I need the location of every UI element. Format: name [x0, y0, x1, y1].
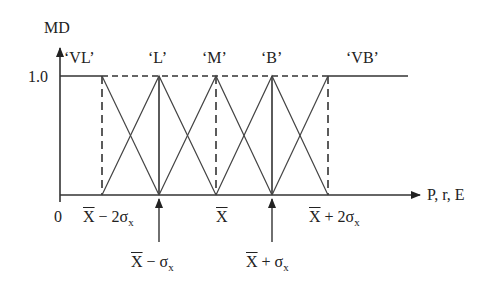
- set-label-m: ‘M’: [202, 50, 227, 66]
- tick-label-mean-plus-sigma: X + σx: [246, 254, 289, 273]
- tick-label-mean: X: [216, 209, 228, 225]
- y-axis-label: MD: [44, 20, 70, 36]
- set-label-b: ‘B’: [261, 50, 282, 66]
- tick-label-mean-plus-2sigma: X + 2σx: [309, 209, 360, 228]
- origin-label: 0: [54, 209, 62, 225]
- tick-label-mean-minus-sigma: X − σx: [131, 254, 174, 273]
- membership-diagram: [0, 0, 500, 288]
- y-tick-1: 1.0: [28, 69, 48, 85]
- set-label-l: ‘L’: [148, 50, 167, 66]
- set-label-vl: ‘VL’: [64, 50, 95, 66]
- tick-label-mean-minus-2sigma: X − 2σx: [83, 209, 134, 228]
- set-label-vb: ‘VB’: [346, 50, 379, 66]
- x-axis-label: P, r, E: [427, 187, 465, 203]
